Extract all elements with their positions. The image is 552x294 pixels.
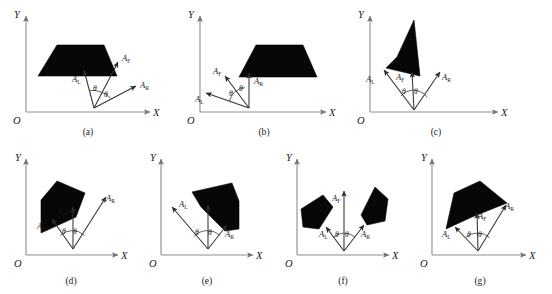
angle-label-left: θ (229, 89, 233, 98)
angle-label-right: θ (208, 228, 212, 237)
vector-right-label: AR (139, 80, 149, 91)
x-axis-label: X (120, 250, 128, 261)
shape-region (386, 20, 420, 76)
angle-label-left: θ (402, 87, 406, 96)
vector-front-label: AF (331, 193, 340, 204)
y-axis-label: Y (15, 152, 22, 163)
origin-label: O (357, 115, 365, 126)
origin-label: O (187, 115, 195, 126)
vector-right-label: AR (441, 72, 451, 83)
origin-label: O (285, 258, 293, 269)
panel-caption-a: (a) (83, 126, 94, 138)
vector-left-label: AL (178, 199, 188, 210)
y-axis-label: Y (421, 152, 428, 163)
vector-front-label: AF (477, 211, 486, 222)
y-axis-label: Y (286, 152, 293, 163)
panel-caption-c: (c) (431, 126, 442, 138)
vector-left-label: AL (365, 74, 375, 85)
origin-label: O (14, 258, 22, 269)
panel-f: Y X O AL AF AR θ θ (f) (275, 145, 415, 294)
origin-label: O (13, 115, 21, 126)
x-axis-label: X (391, 250, 399, 261)
panel-c: Y X O AL AF AR θ θ (c) (352, 0, 552, 140)
panel-a: Y X O AL AF AR θ θ (a) (0, 0, 176, 140)
vector-right-label: AR (105, 193, 115, 204)
y-axis-label: Y (188, 9, 195, 20)
panel-caption-g: (g) (474, 275, 485, 287)
x-axis-label: X (528, 250, 536, 261)
x-axis-label: X (255, 250, 263, 261)
figure-container: Y X O AL AF AR θ θ (a) Y X O AL AF AR θ (0, 0, 552, 294)
vector-front-label: AF (121, 53, 130, 64)
panel-b: Y X O AL AF AR θ θ (b) (176, 0, 352, 140)
origin-label: O (149, 258, 157, 269)
shape-region-left (301, 195, 333, 229)
angle-label-right: θ (104, 90, 108, 99)
angle-label-left: θ (467, 230, 471, 239)
vector-left-label: AL (194, 94, 204, 105)
shape-region (239, 45, 317, 77)
angle-label-right: θ (345, 230, 349, 239)
vector-left (206, 93, 249, 108)
y-axis-label: Y (14, 9, 21, 20)
origin-label: O (420, 258, 428, 269)
vector-front-label: AF (212, 66, 221, 77)
shape-region (192, 183, 239, 231)
y-axis-label: Y (358, 9, 365, 20)
vector-right-label: AR (253, 76, 263, 87)
vector-left-label: AL (441, 229, 451, 240)
y-axis-label: Y (150, 152, 157, 163)
panel-caption-e: (e) (202, 275, 213, 287)
angle-label-right: θ (239, 84, 243, 93)
vector-front-label: AF (395, 72, 404, 83)
shape-region (38, 45, 117, 76)
vector-left-label: AL (318, 229, 328, 240)
panel-e: Y X O AL AR θ θ (e) (139, 145, 279, 294)
vector-left (172, 207, 208, 249)
vector-right-label: AR (224, 229, 234, 240)
angle-label-left: θ (195, 228, 199, 237)
angle-label-right: θ (73, 227, 77, 236)
panel-caption-b: (b) (258, 126, 269, 138)
panel-caption-f: (f) (338, 275, 348, 287)
panel-g: Y X O AL AF AR θ θ (g) (410, 145, 552, 294)
x-axis-label: X (152, 107, 160, 118)
shape-region-right (361, 187, 388, 225)
panel-caption-d: (d) (65, 275, 76, 287)
angle-label-right: θ (478, 230, 482, 239)
angle-label-left: θ (335, 230, 339, 239)
panel-d: Y X O AL AF AR θ θ (d) (0, 145, 142, 294)
angle-label-left: θ (93, 84, 97, 93)
shape-region (446, 181, 507, 229)
angle-label-right: θ (414, 87, 418, 96)
x-axis-label: X (500, 107, 508, 118)
angle-label-left: θ (62, 227, 66, 236)
x-axis-label: X (328, 107, 336, 118)
vector-right-label: AR (504, 201, 514, 212)
vector-right-label: AR (360, 229, 370, 240)
